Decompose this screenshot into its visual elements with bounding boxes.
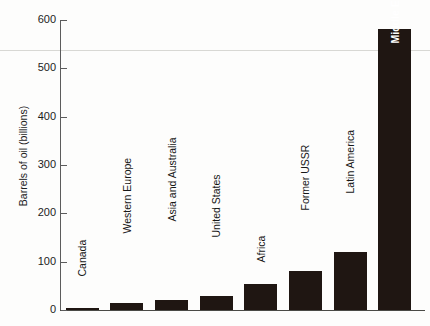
y-tick-label: 100: [28, 256, 56, 267]
y-tick-label-wrap: 600: [24, 14, 56, 25]
y-tick-label-wrap: 400: [24, 111, 56, 122]
y-tick-label-wrap: 200: [24, 207, 56, 218]
bar-category-label: Western Europe: [121, 157, 132, 233]
y-tick-label: 500: [28, 62, 56, 73]
y-axis-title: Barrels of oil (billions): [17, 86, 29, 226]
bar: [200, 296, 233, 311]
bar: [244, 284, 277, 310]
plot-area: CanadaWestern EuropeAsia and AustraliaUn…: [60, 20, 425, 310]
y-tick-label-wrap: 0: [24, 304, 56, 315]
bar-category-label: Africa: [255, 236, 266, 263]
bar-category-label: Asia and Australia: [166, 138, 177, 222]
bar: [378, 29, 411, 310]
bar: [289, 271, 322, 310]
bar: [66, 308, 99, 310]
y-tick-label: 600: [28, 14, 56, 25]
bar-category-label: Middle East: [389, 0, 400, 43]
y-tick-mark: [61, 310, 67, 311]
y-tick-label: 300: [28, 159, 56, 170]
bar-category-label: United States: [211, 175, 222, 238]
y-tick-label: 0: [28, 304, 56, 315]
y-tick-label-wrap: 300: [24, 159, 56, 170]
bar-chart: Barrels of oil (billions) 01002003004005…: [0, 0, 430, 326]
bar-category-label: Latin America: [345, 130, 356, 194]
bar: [334, 252, 367, 310]
y-tick-label-wrap: 500: [24, 62, 56, 73]
bar: [110, 303, 143, 310]
y-tick-label: 200: [28, 207, 56, 218]
x-axis-line: [60, 310, 425, 311]
bar-category-label: Former USSR: [300, 145, 311, 211]
bar: [155, 300, 188, 310]
bar-category-label: Canada: [77, 240, 88, 277]
y-tick-label-wrap: 100: [24, 256, 56, 267]
y-tick-label: 400: [28, 111, 56, 122]
